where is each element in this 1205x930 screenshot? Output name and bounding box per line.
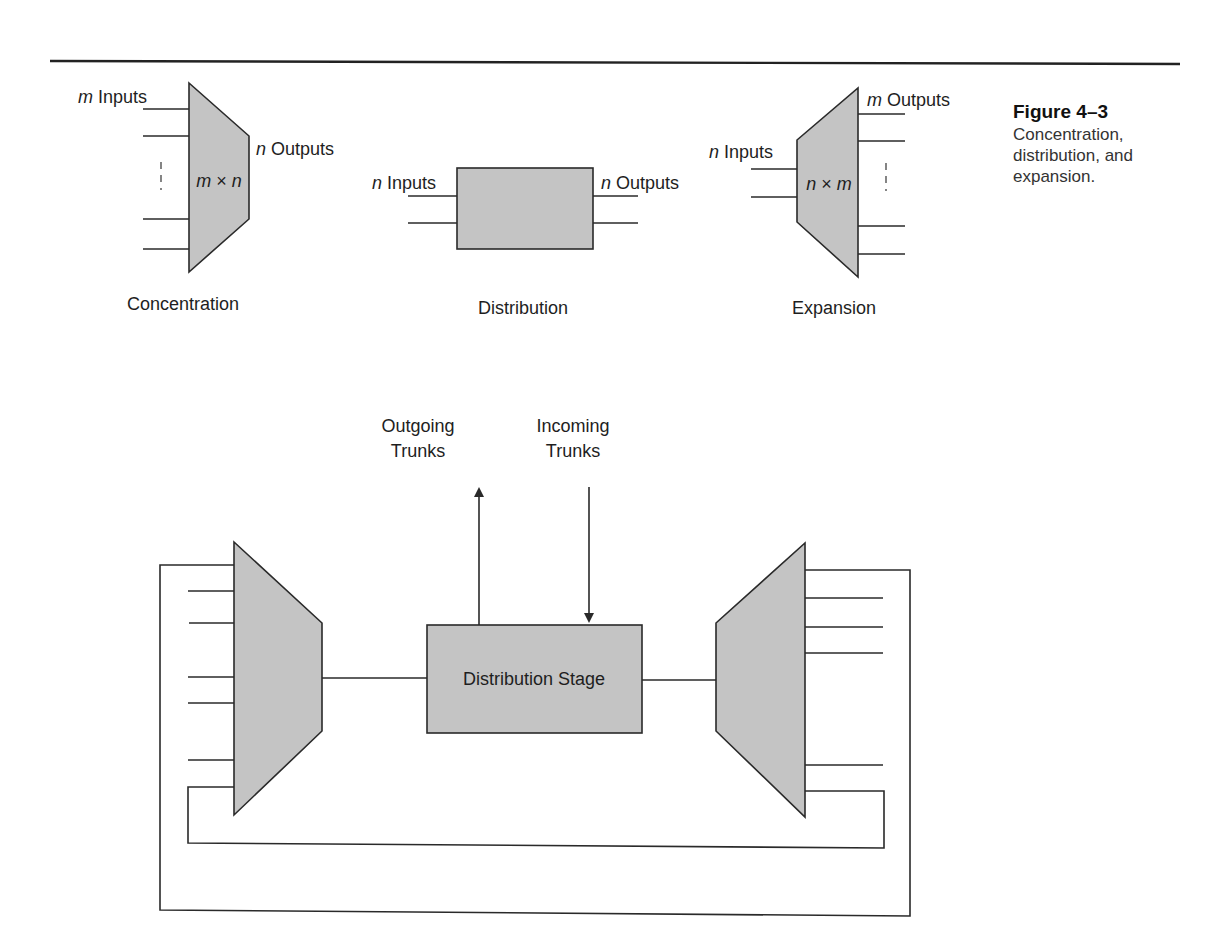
- incoming-trunks-label-line1: Incoming: [536, 416, 609, 436]
- concentration-outputs-label: n Outputs: [256, 139, 334, 159]
- expansion-title: Expansion: [792, 298, 876, 318]
- left-concentrator-trapezoid: [234, 542, 322, 815]
- expansion-inputs-label: n Inputs: [709, 142, 773, 162]
- distribution-stage-label: Distribution Stage: [463, 669, 605, 689]
- distribution-title: Distribution: [478, 298, 568, 318]
- caption-line-3: expansion.: [1013, 167, 1095, 186]
- expansion-size-label: n × m: [806, 174, 852, 194]
- caption-title: Figure 4–3: [1013, 101, 1108, 122]
- outgoing-trunks-label-line2: Trunks: [391, 441, 445, 461]
- concentration-inputs-label: m Inputs: [78, 87, 147, 107]
- distribution-diagram: n Inputs n Outputs Distribution: [372, 168, 679, 318]
- concentration-size-label: m × n: [196, 171, 242, 191]
- caption-line-1: Concentration,: [1013, 125, 1124, 144]
- right-expander-trapezoid: [716, 543, 805, 817]
- distribution-inputs-label: n Inputs: [372, 173, 436, 193]
- expansion-outputs-label: m Outputs: [867, 90, 950, 110]
- figure-canvas: Figure 4–3 Concentration, distribution, …: [0, 0, 1205, 930]
- concentration-title: Concentration: [127, 294, 239, 314]
- switching-network-diagram: Outgoing Trunks Incoming Trunks Distribu…: [160, 416, 910, 916]
- distribution-outputs-label: n Outputs: [601, 173, 679, 193]
- caption-line-2: distribution, and: [1013, 146, 1133, 165]
- outgoing-trunks-label-line1: Outgoing: [381, 416, 454, 436]
- incoming-trunks-label-line2: Trunks: [546, 441, 600, 461]
- distribution-box: [457, 168, 593, 249]
- figure-caption: Figure 4–3 Concentration, distribution, …: [1013, 101, 1133, 186]
- inner-feedback-loop: [188, 787, 884, 848]
- top-rule: [50, 61, 1180, 64]
- expansion-diagram: n Inputs n × m m Outputs Expansion: [709, 88, 950, 318]
- concentration-diagram: m Inputs m × n n Outputs Concentration: [78, 83, 334, 314]
